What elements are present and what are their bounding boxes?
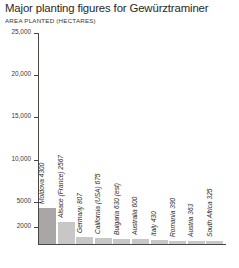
y-axis-tick: 5000	[1, 202, 38, 203]
bar-label: Moldova 4300	[38, 162, 45, 203]
bar-label: Italy 430	[150, 211, 157, 236]
chart-subtitle: AREA PLANTED (HECTARES)	[5, 17, 96, 24]
bar	[76, 237, 94, 244]
bar-label: Australia 600	[131, 196, 138, 235]
bar	[151, 240, 169, 244]
bar-label: South Africa 325	[206, 189, 213, 238]
bar	[58, 222, 76, 244]
y-axis-tick-label: 2000	[17, 222, 31, 229]
bar-label: California (USA) 675	[94, 174, 101, 234]
chart-title: Major planting figures for Gewürztramine…	[5, 2, 208, 14]
y-axis-tick-label: 20,000	[11, 70, 31, 77]
plot-area: 25,00020,00015,00010,00050002000 Moldova…	[38, 33, 234, 246]
y-axis-tick: 20,000	[1, 75, 38, 76]
y-axis-tick-mark	[34, 160, 38, 161]
y-axis-tick-mark	[34, 117, 38, 118]
y-axis-tick: 2000	[1, 227, 38, 228]
y-axis-tick-label: 15,000	[11, 112, 31, 119]
bar-label: Bulgaria 630 (est)	[113, 183, 120, 235]
bar-label: Romania 390	[169, 197, 176, 236]
bar	[39, 208, 57, 244]
bar	[169, 241, 187, 244]
bar-label: Germany 807	[76, 193, 83, 233]
bar	[113, 239, 131, 244]
y-axis-tick-mark	[34, 75, 38, 76]
y-axis-tick-mark	[34, 227, 38, 228]
y-axis-tick: 10,000	[1, 160, 38, 161]
y-axis-tick-label: 10,000	[11, 155, 31, 162]
bar	[188, 241, 206, 244]
bar	[132, 239, 150, 244]
y-axis-tick-mark	[34, 33, 38, 34]
bar	[95, 238, 113, 244]
x-axis-line	[38, 244, 226, 245]
y-axis-tick: 25,000	[1, 33, 38, 34]
bar-label: Austria 363	[187, 204, 194, 237]
bar	[206, 241, 224, 244]
y-axis-tick-label: 25,000	[11, 28, 31, 35]
y-axis-tick: 15,000	[1, 117, 38, 118]
y-axis-tick-label: 5000	[17, 197, 31, 204]
chart-container: Major planting figures for Gewürztramine…	[0, 0, 239, 268]
bar-series: Moldova 4300Alsace (France) 2567Germany …	[39, 33, 226, 244]
bar-label: Alsace (France) 2567	[57, 155, 64, 218]
